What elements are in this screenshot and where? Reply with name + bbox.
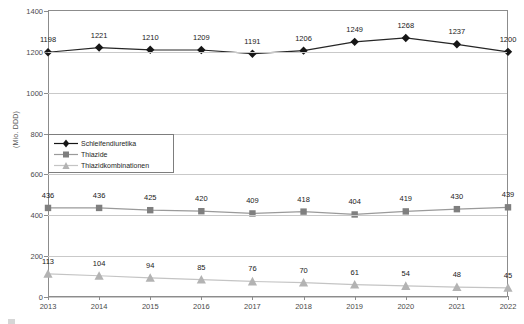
data-point-label: 420	[195, 194, 208, 203]
x-tick-label: 2022	[500, 302, 517, 311]
caption-marker-icon	[8, 319, 15, 324]
y-axis-title: (Mio. DDD)	[12, 95, 19, 165]
data-point-label: 418	[297, 195, 310, 204]
chart-legend: Schleifendiuretika Thiazide Thiazidkombi…	[48, 134, 174, 173]
data-point-label: 45	[504, 271, 512, 280]
y-tick-label: 400	[30, 211, 43, 220]
x-tick-mark	[508, 296, 509, 300]
x-tick-mark	[99, 296, 100, 300]
data-point-label: 1268	[397, 21, 414, 30]
x-tick-label: 2017	[244, 302, 261, 311]
x-tick-mark	[48, 296, 49, 300]
x-tick-label: 2014	[91, 302, 108, 311]
data-point-label: 430	[451, 192, 464, 201]
data-point-label: 419	[400, 194, 413, 203]
legend-label: Schleifendiuretika	[81, 140, 136, 147]
x-tick-mark	[150, 296, 151, 300]
y-tick-mark	[44, 11, 48, 12]
gridline	[48, 52, 507, 53]
x-tick-mark	[355, 296, 356, 300]
triangle-marker-icon	[53, 160, 79, 171]
data-point-label: 113	[42, 257, 54, 266]
legend-label: Thiazide	[81, 151, 107, 158]
data-point-label: 1198	[40, 35, 56, 44]
data-point-label: 70	[299, 266, 307, 275]
y-tick-mark	[44, 52, 48, 53]
data-point-marker	[350, 38, 358, 46]
data-point-marker	[147, 207, 153, 213]
y-tick-label: 1000	[26, 88, 43, 97]
series-line	[48, 207, 508, 214]
data-point-label: 104	[93, 259, 106, 268]
legend-item-thiazide: Thiazide	[53, 149, 169, 160]
x-tick-label: 2020	[397, 302, 414, 311]
data-point-marker	[299, 46, 307, 54]
data-point-label: 1237	[449, 27, 466, 36]
gridline	[48, 174, 507, 175]
data-point-label: 439	[502, 190, 515, 199]
x-tick-label: 2021	[449, 302, 466, 311]
gridline	[48, 93, 507, 94]
data-point-label: 61	[350, 268, 358, 277]
data-point-label: 1191	[244, 37, 260, 46]
data-point-label: 1210	[142, 33, 159, 42]
data-point-label: 48	[453, 270, 461, 279]
data-point-label: 436	[42, 191, 55, 200]
x-tick-mark	[406, 296, 407, 300]
data-point-label: 1200	[500, 35, 517, 44]
gridline	[48, 256, 507, 257]
data-point-label: 1209	[193, 33, 210, 42]
y-tick-label: 1400	[26, 7, 43, 16]
legend-label: Thiazidkombinationen	[81, 162, 149, 169]
x-tick-label: 2016	[193, 302, 210, 311]
data-point-label: 1206	[295, 34, 312, 43]
data-point-marker	[45, 205, 51, 211]
data-point-label: 76	[248, 264, 256, 273]
data-point-marker	[300, 208, 306, 214]
data-point-marker	[197, 46, 205, 54]
data-point-label: 1221	[91, 31, 108, 40]
data-point-label: 409	[246, 196, 259, 205]
y-tick-mark	[44, 215, 48, 216]
data-point-marker	[402, 34, 410, 42]
y-tick-mark	[44, 93, 48, 94]
x-tick-mark	[252, 296, 253, 300]
data-point-marker	[505, 204, 511, 210]
diamond-marker-icon	[53, 138, 79, 149]
figure-caption	[8, 318, 18, 324]
data-point-label: 1249	[346, 25, 363, 34]
square-marker-icon	[53, 149, 79, 160]
data-point-marker	[95, 43, 103, 51]
data-point-label: 425	[144, 193, 157, 202]
data-point-marker	[198, 208, 204, 214]
y-tick-label: 800	[30, 129, 43, 138]
x-tick-label: 2015	[142, 302, 159, 311]
gridline	[48, 215, 507, 216]
y-tick-label: 1200	[26, 47, 43, 56]
y-tick-label: 0	[39, 293, 43, 302]
x-tick-mark	[201, 296, 202, 300]
data-point-label: 85	[197, 263, 205, 272]
data-point-marker	[96, 205, 102, 211]
data-point-label: 436	[93, 191, 106, 200]
data-point-marker	[454, 206, 460, 212]
x-tick-mark	[304, 296, 305, 300]
data-point-marker	[453, 40, 461, 48]
legend-item-schleifendiuretika: Schleifendiuretika	[53, 138, 169, 149]
x-tick-mark	[457, 296, 458, 300]
y-tick-label: 600	[30, 170, 43, 179]
data-point-label: 404	[348, 197, 361, 206]
x-tick-label: 2013	[40, 302, 57, 311]
data-point-marker	[248, 49, 256, 57]
x-tick-label: 2018	[295, 302, 312, 311]
data-point-label: 94	[146, 261, 154, 270]
series-line	[48, 274, 508, 288]
gridline	[48, 297, 507, 298]
data-point-marker	[403, 208, 409, 214]
data-point-label: 54	[402, 269, 410, 278]
y-tick-mark	[44, 174, 48, 175]
legend-item-thiazidkombinationen: Thiazidkombinationen	[53, 160, 169, 171]
x-tick-label: 2019	[346, 302, 363, 311]
